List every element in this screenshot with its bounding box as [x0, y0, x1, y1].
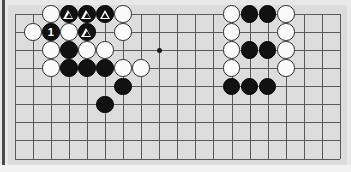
move-number-label: 1	[43, 24, 59, 40]
white-stone[interactable]	[114, 23, 132, 41]
grid-line-vertical	[340, 14, 341, 159]
white-stone[interactable]	[24, 23, 42, 41]
page-left-rule	[2, 0, 5, 172]
black-stone[interactable]	[241, 78, 259, 96]
move-number-text: 1	[48, 27, 54, 38]
black-stone[interactable]	[60, 41, 78, 59]
white-stone[interactable]	[277, 5, 295, 23]
triangle-glyph	[100, 10, 110, 19]
white-stone[interactable]	[223, 23, 241, 41]
white-stone[interactable]	[223, 5, 241, 23]
black-stone[interactable]	[114, 78, 132, 96]
white-stone[interactable]	[114, 5, 132, 23]
white-stone[interactable]	[42, 41, 60, 59]
triangle-marker-icon	[97, 6, 113, 22]
triangle-marker-icon	[79, 6, 95, 22]
black-stone[interactable]	[259, 5, 277, 23]
go-board[interactable]: 1	[8, 5, 347, 165]
grid-line-horizontal	[15, 140, 340, 141]
white-stone[interactable]	[277, 59, 295, 77]
white-stone[interactable]	[277, 23, 295, 41]
white-stone[interactable]	[42, 5, 60, 23]
star-point-left-icon	[157, 48, 162, 53]
black-stone[interactable]	[259, 41, 277, 59]
triangle-marker-icon	[61, 6, 77, 22]
black-stone[interactable]	[96, 5, 114, 23]
triangle-glyph	[82, 10, 92, 19]
grid-line-horizontal	[15, 159, 340, 160]
black-stone[interactable]	[78, 59, 96, 77]
black-stone[interactable]	[96, 59, 114, 77]
white-stone[interactable]	[223, 41, 241, 59]
black-stone[interactable]	[96, 96, 114, 114]
black-stone[interactable]: 1	[42, 23, 60, 41]
black-stone[interactable]	[78, 23, 96, 41]
black-stone[interactable]	[223, 78, 241, 96]
triangle-marker-icon	[79, 24, 95, 40]
white-stone[interactable]	[277, 41, 295, 59]
black-stone[interactable]	[259, 78, 277, 96]
white-stone[interactable]	[42, 59, 60, 77]
white-stone[interactable]	[114, 59, 132, 77]
page-bottom-margin	[0, 165, 351, 172]
grid-line-horizontal	[15, 104, 340, 105]
black-stone[interactable]	[60, 59, 78, 77]
black-stone[interactable]	[241, 5, 259, 23]
grid-line-horizontal	[15, 122, 340, 123]
triangle-glyph	[82, 28, 92, 37]
black-stone[interactable]	[241, 41, 259, 59]
white-stone[interactable]	[78, 41, 96, 59]
triangle-glyph	[64, 10, 74, 19]
grid-line-horizontal	[15, 86, 340, 87]
white-stone[interactable]	[223, 59, 241, 77]
white-stone[interactable]	[96, 41, 114, 59]
white-stone[interactable]	[132, 59, 150, 77]
screenshot-root: 1	[0, 0, 351, 172]
white-stone[interactable]	[60, 23, 78, 41]
black-stone[interactable]	[60, 5, 78, 23]
black-stone[interactable]	[78, 5, 96, 23]
